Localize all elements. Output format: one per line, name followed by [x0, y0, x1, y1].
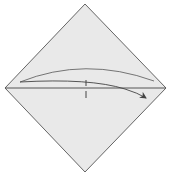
origami-diagram: [0, 0, 170, 177]
diagram-svg: [0, 0, 170, 177]
